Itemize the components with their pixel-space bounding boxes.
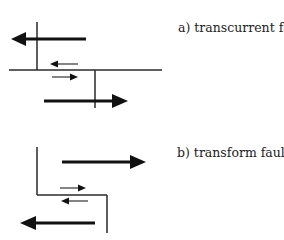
panel-b-transform <box>20 147 146 233</box>
small-arrow-left-icon <box>50 61 78 68</box>
large-arrow-left-icon <box>11 32 86 46</box>
large-arrow-left-icon <box>20 216 95 230</box>
panel-a-label: a) transcurrent fault <box>178 20 284 35</box>
fault-diagram <box>0 0 284 240</box>
small-arrow-right-icon <box>52 74 78 81</box>
large-arrow-right-icon <box>44 94 128 108</box>
panel-a-transcurrent <box>9 22 162 108</box>
panel-b-label: b) transform fault <box>177 145 284 160</box>
small-arrow-right-icon <box>60 185 86 192</box>
small-arrow-left-icon <box>61 198 88 205</box>
large-arrow-right-icon <box>62 155 146 169</box>
